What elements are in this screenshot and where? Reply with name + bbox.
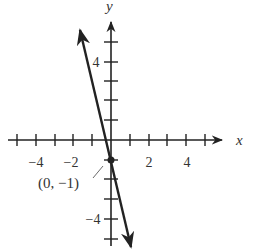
x-tick-label-2: 2 — [146, 155, 153, 170]
y-axis-label: y — [104, 0, 113, 14]
point-label-leader — [93, 166, 103, 178]
y-tick-label-4: 4 — [93, 55, 100, 70]
x-tick-label-neg4: −4 — [29, 155, 44, 170]
x-tick-label-4: 4 — [184, 155, 191, 170]
coordinate-plane: x y −4 −2 2 4 4 −4 (0, −1) — [0, 0, 254, 250]
x-axis-label: x — [235, 132, 243, 148]
point-label: (0, −1) — [38, 175, 79, 192]
x-tick-label-neg2: −2 — [64, 155, 79, 170]
y-tick-label-neg4: −4 — [86, 212, 101, 227]
y-axis — [104, 22, 118, 246]
point-y-intercept — [108, 157, 115, 164]
x-axis — [8, 134, 222, 146]
